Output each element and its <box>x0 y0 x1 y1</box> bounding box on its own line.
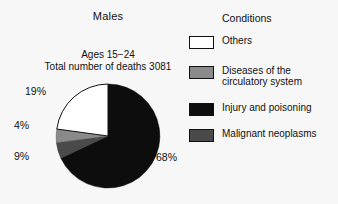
legend-label-diseases-circulatory-system: Diseases of the circulatory system <box>222 65 302 87</box>
legend-swatch-others <box>189 36 214 49</box>
legend-label-others: Others <box>222 35 252 46</box>
pie-svg <box>52 80 164 192</box>
legend-swatch-diseases-circulatory-system <box>189 66 214 79</box>
legend-item-diseases-circulatory-system: Diseases of the circulatory system <box>186 64 338 90</box>
legend-label-injury-and-poisoning: Injury and poisoning <box>222 102 312 113</box>
legend-swatch-injury-and-poisoning <box>189 103 214 116</box>
legend: Conditions Others Diseases of the circul… <box>186 8 338 156</box>
legend-swatch-malignant-neoplasms <box>189 129 214 142</box>
legend-item-malignant-neoplasms: Malignant neoplasms <box>186 127 338 153</box>
slice-label-9-percent: 9% <box>14 151 29 162</box>
legend-label-malignant-neoplasms: Malignant neoplasms <box>222 128 317 139</box>
legend-item-others: Others <box>186 34 338 60</box>
slice-label-68-percent: 68% <box>156 152 177 163</box>
slice-label-4-percent: 4% <box>14 120 29 131</box>
legend-title: Conditions <box>222 12 272 24</box>
pie-chart-figure: Males Ages 15−24 Total number of deaths … <box>0 0 338 204</box>
pie-slice-others <box>57 84 108 136</box>
page-title: Males <box>0 11 216 22</box>
slice-label-19-percent: 19% <box>25 86 46 97</box>
subtitle-age-group: Ages 15−24 <box>0 50 216 60</box>
legend-item-injury-and-poisoning: Injury and poisoning <box>186 101 338 127</box>
subtitle-total-deaths: Total number of deaths 3081 <box>0 62 216 72</box>
